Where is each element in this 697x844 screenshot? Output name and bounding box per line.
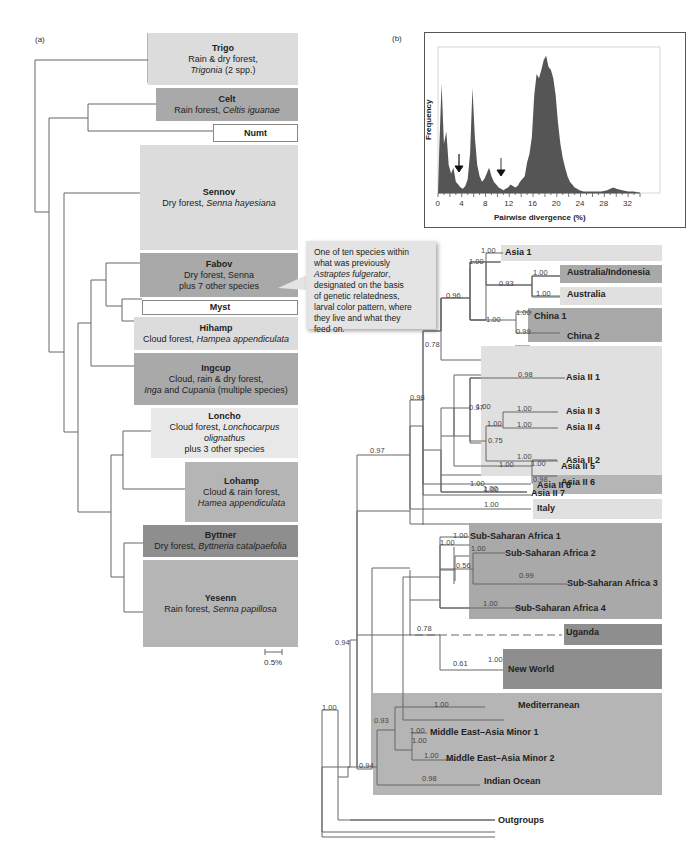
x-tick-label: 0 xyxy=(436,199,440,208)
support-value: 1.00 xyxy=(484,485,499,494)
clade-box-yesenn: Yesenn Rain forest, Senna papillosa xyxy=(143,560,298,647)
taxon-label: Australia/Indonesia xyxy=(567,267,650,277)
support-value: 0.93 xyxy=(374,716,389,725)
clade-box-fabov: Fabov Dry forest, Senna plus 7 other spe… xyxy=(140,253,298,297)
support-value: 1.00 xyxy=(487,419,502,428)
support-value: 1.00 xyxy=(517,404,532,413)
clade-box-numt: Numt xyxy=(213,124,298,142)
clade-box-trigo: Trigo Rain & dry forest, Trigonia (2 spp… xyxy=(148,33,298,85)
support-value: 1.00 xyxy=(533,268,548,277)
support-value: 1.00 xyxy=(486,315,501,324)
support-value: 1.00 xyxy=(484,500,499,509)
support-value: 1.00 xyxy=(469,257,484,266)
x-tick-label: 12 xyxy=(504,199,513,208)
support-value: 0.94 xyxy=(335,638,350,647)
taxon-label: Australia xyxy=(567,289,606,299)
x-tick-label: 28 xyxy=(599,199,608,208)
taxon-label: Outgroups xyxy=(498,815,544,825)
support-value: 1.00 xyxy=(531,459,546,468)
taxon-label: Middle East–Asia Minor 2 xyxy=(446,753,555,763)
x-tick-label: 16 xyxy=(528,199,537,208)
support-value: 0.75 xyxy=(488,436,503,445)
support-value: 1.00 xyxy=(470,479,485,488)
clade-box-myst: Myst xyxy=(142,300,298,315)
clade-box-hihamp: Hihamp Cloud forest, Hampea appendiculat… xyxy=(134,317,298,350)
taxon-label: Sub-Saharan Africa 1 xyxy=(470,531,561,541)
support-value: 0.61 xyxy=(453,659,468,668)
support-value: 1.00 xyxy=(471,544,486,553)
support-value: 1.00 xyxy=(434,700,449,709)
support-value: 1.00 xyxy=(488,655,503,664)
x-tick-label: 24 xyxy=(576,199,585,208)
support-value: 0.98 xyxy=(422,774,437,783)
x-tick-label: 32 xyxy=(623,199,632,208)
clade-box-byttner: Byttner Dry forest, Byttneria catalpaefo… xyxy=(143,525,298,557)
support-value: 1.00 xyxy=(499,460,514,469)
taxon-label: Indian Ocean xyxy=(484,776,541,786)
taxon-label: Asia II 8 xyxy=(537,480,571,490)
support-value: 0.99 xyxy=(519,571,534,580)
taxon-label: Asia II 5 xyxy=(561,461,595,471)
taxon-label: Mediterranean xyxy=(518,700,580,710)
support-value: 0.56 xyxy=(456,561,471,570)
taxon-label: Asia II 1 xyxy=(566,372,600,382)
x-tick-label: 4 xyxy=(459,199,463,208)
taxon-label: China 1 xyxy=(534,311,567,321)
clade-box-celt: Celt Rain forest, Celtis iguanae xyxy=(156,88,298,121)
taxon-label: Asia II 4 xyxy=(566,422,600,432)
support-value: 1.00 xyxy=(516,308,531,317)
support-value: 0.78 xyxy=(417,624,432,633)
support-value: 0.97 xyxy=(469,403,484,412)
clade-box-loncho: Loncho Cloud forest, Lonchocarpus oligna… xyxy=(151,408,298,458)
support-value: 1.00 xyxy=(424,751,439,760)
species-callout: One of ten species within what was previ… xyxy=(306,241,436,329)
taxon-label: China 2 xyxy=(567,331,600,341)
taxon-label: Uganda xyxy=(566,627,599,637)
support-value: 0.98 xyxy=(410,393,425,402)
taxon-label: Sub-Saharan Africa 2 xyxy=(505,548,596,558)
support-value: 1.00 xyxy=(410,726,425,735)
support-value: 1.00 xyxy=(481,246,496,255)
support-value: 0.78 xyxy=(425,340,440,349)
clade-box-sennov: Sennov Dry forest, Senna hayesiana xyxy=(140,145,298,250)
support-value: 1.00 xyxy=(483,599,498,608)
support-value: 0.96 xyxy=(446,291,461,300)
panel-b-label: (b) xyxy=(392,34,402,43)
taxon-label: Middle East–Asia Minor 1 xyxy=(430,727,539,737)
taxon-label: New World xyxy=(508,664,554,674)
support-value: 0.94 xyxy=(359,761,374,770)
taxon-label: Asia II 3 xyxy=(566,406,600,416)
x-tick-label: 8 xyxy=(483,199,487,208)
support-value: 0.99 xyxy=(516,327,531,336)
x-tick-label: 20 xyxy=(552,199,561,208)
taxon-label: Sub-Saharan Africa 4 xyxy=(515,603,606,613)
taxon-label: Sub-Saharan Africa 3 xyxy=(567,578,658,588)
support-value: 1.00 xyxy=(412,736,427,745)
support-value: 1.00 xyxy=(517,420,532,429)
clade-box-ingcup: Ingcup Cloud, rain & dry forest, Inga an… xyxy=(134,353,298,405)
support-value: 0.98 xyxy=(518,370,533,379)
support-value: 0.97 xyxy=(370,446,385,455)
support-value: 1.00 xyxy=(517,452,532,461)
histogram-xlabel: Pairwise divergence (%) xyxy=(494,213,586,222)
taxon-label: Italy xyxy=(537,503,555,513)
taxon-label: Asia 1 xyxy=(505,247,532,257)
support-value: 1.00 xyxy=(453,531,468,540)
support-value: 1.00 xyxy=(322,703,337,712)
histogram-ylabel: Frequency xyxy=(424,100,433,140)
support-value: 1.00 xyxy=(536,289,551,298)
scale-bar-label: 0.5% xyxy=(264,658,282,667)
support-value: 1.00 xyxy=(440,538,455,547)
clade-box-lohamp: Lohamp Cloud & rain forest, Hamea append… xyxy=(185,462,298,522)
support-value: 0.93 xyxy=(499,279,514,288)
